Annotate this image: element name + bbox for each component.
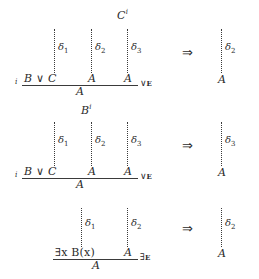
reduces-to-arrow: ⇒ bbox=[182, 139, 193, 152]
derivation-label-3: δ3 bbox=[131, 135, 142, 148]
derivation-label-3: δ3 bbox=[131, 42, 142, 55]
derivation-label-2: δ2 bbox=[95, 42, 106, 55]
result-derivation-label: δ2 bbox=[225, 218, 236, 231]
derivation-line-1 bbox=[54, 122, 56, 166]
discharge-index: i bbox=[15, 78, 17, 86]
proof-reduction-figure: Ci δ1 δ2 δ3 i B ∨ C A A A ∨E ⇒ δ2 A Bi bbox=[0, 0, 259, 279]
rule-label: ∨E bbox=[140, 79, 152, 88]
premise-1: B ∨ C bbox=[24, 166, 57, 177]
derivation-line-3 bbox=[127, 29, 129, 73]
derivation-line-1 bbox=[54, 29, 56, 73]
premise-2: A bbox=[88, 73, 96, 84]
premise-1: B ∨ C bbox=[24, 73, 57, 84]
rule-label: ∨E bbox=[140, 172, 152, 181]
result-derivation-line bbox=[221, 29, 223, 73]
premise-3: A bbox=[124, 73, 132, 84]
open-assumption-C: Ci bbox=[117, 9, 128, 21]
discharge-index: i bbox=[15, 171, 17, 179]
premise-2: A bbox=[124, 247, 132, 258]
derivation-label-1: δ1 bbox=[58, 42, 69, 55]
result-derivation-label: δ3 bbox=[225, 135, 236, 148]
derivation-line-2 bbox=[127, 208, 129, 247]
derivation-label-1: δ1 bbox=[58, 135, 69, 148]
reduces-to-arrow: ⇒ bbox=[182, 222, 193, 235]
premise-2: A bbox=[88, 166, 96, 177]
reduces-to-arrow: ⇒ bbox=[182, 46, 193, 59]
conclusion: A bbox=[92, 260, 100, 271]
conclusion: A bbox=[76, 86, 84, 97]
discharge-superscript: i bbox=[89, 103, 91, 111]
derivation-line-3 bbox=[127, 122, 129, 166]
result-conclusion: A bbox=[218, 248, 226, 259]
premise-1: ∃x B(x) bbox=[55, 247, 95, 258]
result-derivation-line bbox=[221, 122, 223, 166]
premise-3: A bbox=[124, 166, 132, 177]
derivation-label-2: δ2 bbox=[95, 135, 106, 148]
result-conclusion: A bbox=[218, 74, 226, 85]
result-derivation-line bbox=[221, 208, 223, 247]
result-derivation-label: δ2 bbox=[225, 42, 236, 55]
derivation-line-1 bbox=[81, 208, 83, 247]
derivation-label-1: δ1 bbox=[85, 218, 96, 231]
derivation-line-2 bbox=[91, 122, 93, 166]
open-assumption-B: Bi bbox=[81, 104, 92, 116]
derivation-line-2 bbox=[91, 29, 93, 73]
result-conclusion: A bbox=[218, 167, 226, 178]
conclusion: A bbox=[76, 179, 84, 190]
derivation-label-2: δ2 bbox=[131, 218, 142, 231]
discharge-superscript: i bbox=[126, 8, 128, 16]
rule-label: ∃E bbox=[140, 253, 150, 262]
